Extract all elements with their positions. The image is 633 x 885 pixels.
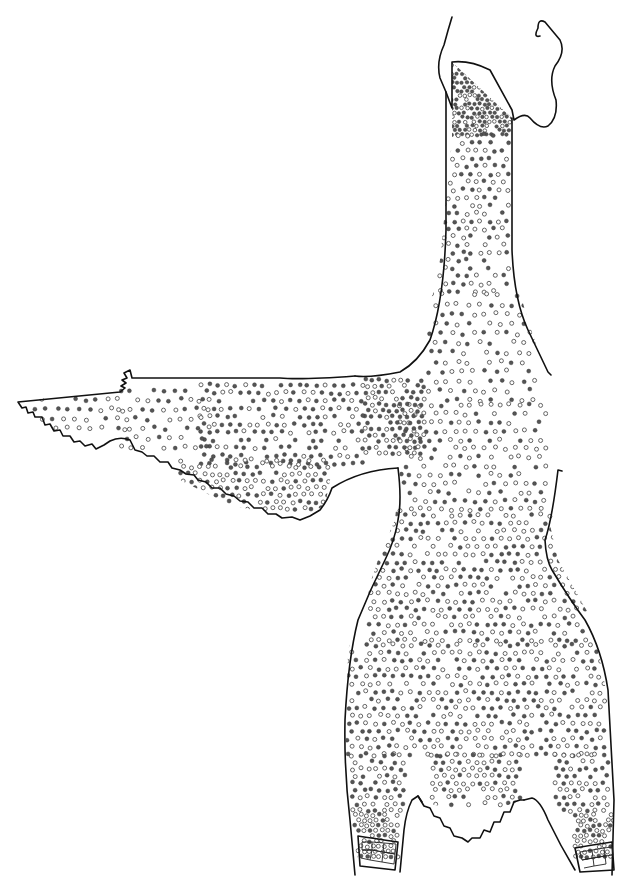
follicle-dot xyxy=(513,528,517,532)
follicle-dot xyxy=(216,413,220,417)
follicle-dot xyxy=(486,266,490,270)
follicle-dot xyxy=(210,458,214,462)
follicle-dot xyxy=(462,352,466,356)
follicle-dot xyxy=(341,462,345,466)
follicle-dot xyxy=(486,698,490,702)
follicle-dot xyxy=(593,782,597,786)
follicle-dot xyxy=(307,431,311,435)
follicle-dot xyxy=(221,494,225,498)
follicle-dot xyxy=(480,97,484,101)
follicle-dot xyxy=(484,591,488,595)
follicle-dot xyxy=(539,746,543,750)
follicle-dot xyxy=(326,465,330,469)
follicle-dot xyxy=(449,508,453,512)
follicle-dot xyxy=(377,451,381,455)
follicle-dot xyxy=(452,568,456,572)
follicle-dot xyxy=(482,212,486,216)
follicle-dot xyxy=(363,402,367,406)
follicle-dot xyxy=(377,528,381,532)
follicle-dot xyxy=(450,133,454,137)
follicle-dot xyxy=(404,427,408,431)
follicle-dot xyxy=(506,801,510,805)
follicle-dot xyxy=(413,498,417,502)
follicle-dot xyxy=(558,713,562,717)
follicle-dot xyxy=(581,759,585,763)
follicle-dot xyxy=(390,598,394,602)
follicle-dot xyxy=(477,491,481,495)
follicle-dot xyxy=(500,378,504,382)
follicle-dot xyxy=(444,691,448,695)
follicle-dot xyxy=(463,600,467,604)
follicle-dot xyxy=(461,115,465,119)
follicle-dot xyxy=(455,397,459,401)
follicle-dot xyxy=(459,403,463,407)
follicle-dot xyxy=(361,460,365,464)
follicle-dot xyxy=(316,415,320,419)
follicle-dot xyxy=(387,639,391,643)
follicle-dot xyxy=(530,639,534,643)
follicle-dot xyxy=(477,474,481,478)
follicle-dot xyxy=(404,746,408,750)
follicle-dot xyxy=(322,485,326,489)
follicle-dot xyxy=(501,124,505,128)
follicle-dot xyxy=(487,491,491,495)
follicle-dot xyxy=(386,697,390,701)
follicle-dot xyxy=(389,844,393,848)
follicle-dot xyxy=(207,425,211,429)
follicle-dot xyxy=(400,659,404,663)
follicle-dot xyxy=(488,203,492,207)
follicle-dot xyxy=(481,582,485,586)
follicle-dot xyxy=(383,780,387,784)
follicle-dot xyxy=(579,823,583,827)
follicle-dot xyxy=(350,744,354,748)
follicle-dot xyxy=(580,787,584,791)
follicle-dot xyxy=(517,536,521,540)
follicle-dot xyxy=(433,500,437,504)
follicle-dot xyxy=(552,583,556,587)
follicle-dot xyxy=(476,97,480,101)
follicle-dot xyxy=(517,521,521,525)
follicle-dot xyxy=(508,658,512,662)
follicle-dot xyxy=(582,838,586,842)
follicle-dot xyxy=(423,640,427,644)
follicle-dot xyxy=(218,473,222,477)
follicle-dot xyxy=(451,115,455,119)
follicle-dot xyxy=(424,500,428,504)
follicle-dot xyxy=(584,833,588,837)
follicle-dot xyxy=(495,235,499,239)
follicle-dot xyxy=(475,72,479,76)
follicle-dot xyxy=(535,657,539,661)
follicle-dot xyxy=(410,600,414,604)
follicle-dot xyxy=(361,775,365,779)
follicle-dot xyxy=(482,537,486,541)
follicle-dot xyxy=(478,753,482,757)
follicle-dot xyxy=(444,464,448,468)
follicle-dot xyxy=(427,389,431,393)
follicle-dot xyxy=(510,768,514,772)
follicle-dot xyxy=(428,568,432,572)
follicle-dot xyxy=(445,302,449,306)
follicle-dot xyxy=(195,501,199,505)
follicle-dot xyxy=(443,552,447,556)
follicle-dot xyxy=(486,90,490,94)
follicle-dot xyxy=(399,378,403,382)
follicle-dot xyxy=(471,706,475,710)
follicle-dot xyxy=(588,789,592,793)
follicle-dot xyxy=(383,552,387,556)
follicle-dot xyxy=(65,407,69,411)
follicle-dot xyxy=(536,704,540,708)
follicle-dot xyxy=(489,585,493,589)
follicle-dot xyxy=(401,396,405,400)
follicle-dot xyxy=(513,789,517,793)
follicle-dot xyxy=(202,421,206,425)
follicle-dot xyxy=(477,420,481,424)
follicle-dot xyxy=(500,552,504,556)
follicle-dot xyxy=(503,768,507,772)
follicle-dot xyxy=(289,383,293,387)
follicle-dot xyxy=(539,512,543,516)
follicle-dot xyxy=(350,729,354,733)
follicle-dot xyxy=(418,675,422,679)
follicle-dot xyxy=(583,574,587,578)
follicle-dot xyxy=(557,543,561,547)
follicle-dot xyxy=(505,157,509,161)
